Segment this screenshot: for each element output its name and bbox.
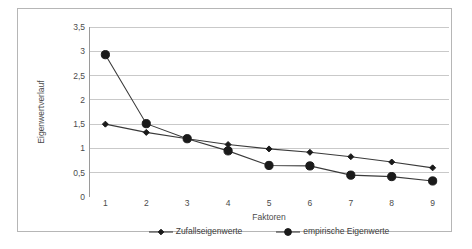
legend-label: empirische Eigenwerte (303, 227, 389, 236)
x-axis-tick-label: 9 (420, 199, 446, 208)
data-point-marker (224, 147, 232, 155)
x-axis-tick-label: 3 (174, 199, 200, 208)
plot-area (89, 27, 449, 197)
figure: 00,511,522,533,5 Eigenwertverlauf 123456… (0, 0, 472, 249)
x-axis-tick-label: 2 (133, 199, 159, 208)
y-axis-title: Eigenwertverlauf (36, 80, 46, 143)
data-point-marker (183, 135, 191, 143)
y-axis-tick-label: 2,5 (55, 71, 85, 80)
data-point-marker (285, 228, 292, 235)
data-point-marker (265, 161, 273, 169)
data-point-marker (306, 162, 314, 170)
data-point-marker (102, 121, 108, 127)
x-axis-tick-label: 8 (379, 199, 405, 208)
data-point-marker (143, 129, 149, 135)
x-axis-tick-label: 1 (92, 199, 118, 208)
legend-item[interactable]: empirische Eigenwerte (276, 227, 389, 237)
y-axis-tick-label: 3 (55, 47, 85, 56)
legend-circle-marker-icon (276, 227, 300, 237)
data-point-marker (388, 173, 396, 181)
legend-item[interactable]: Zufallseigenwerte (149, 227, 243, 237)
data-point-marker (347, 171, 355, 179)
x-axis-tick-label: 5 (256, 199, 282, 208)
x-axis-tick-labels: 123456789 (89, 199, 449, 213)
chart-frame: 00,511,522,533,5 Eigenwertverlauf 123456… (17, 8, 452, 232)
y-axis-tick-labels: 00,511,522,533,5 (51, 27, 85, 197)
y-axis-tick-label: 0 (55, 193, 85, 202)
y-axis-tick-label: 2 (55, 96, 85, 105)
x-axis-tick-label: 4 (215, 199, 241, 208)
figure-caption (18, 239, 458, 249)
y-axis-tick-label: 0,5 (55, 168, 85, 177)
data-point-marker (348, 154, 354, 160)
data-point-marker (158, 229, 164, 235)
data-point-marker (389, 159, 395, 165)
x-axis-tick-label: 7 (338, 199, 364, 208)
y-axis-tick-label: 1,5 (55, 120, 85, 129)
plot-svg (89, 27, 449, 197)
y-axis-tick-label: 3,5 (55, 23, 85, 32)
data-point-marker (430, 165, 436, 171)
legend-diamond-marker-icon (149, 227, 173, 237)
data-point-marker (307, 149, 313, 155)
legend-label: Zufallseigenwerte (176, 227, 243, 236)
data-point-marker (142, 120, 150, 128)
data-point-marker (429, 177, 437, 185)
chart-legend: Zufallseigenwerteempirische Eigenwerte (89, 225, 449, 238)
data-point-marker (101, 51, 109, 59)
y-axis-tick-label: 1 (55, 144, 85, 153)
x-axis-title: Faktoren (89, 212, 449, 222)
data-point-marker (266, 146, 272, 152)
x-axis-tick-label: 6 (297, 199, 323, 208)
